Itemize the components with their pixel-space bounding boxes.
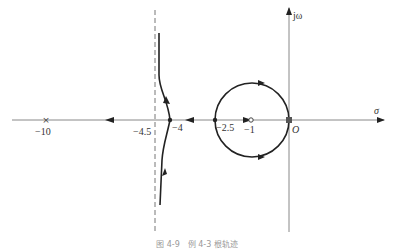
pole-cross-icon: × — [42, 115, 50, 125]
double-pole-origin — [286, 117, 292, 123]
label-sigma: σ — [374, 105, 380, 116]
root-locus-diagram: × −10 −4.5 −4 −2.5 −1 O σ jω — [0, 0, 394, 251]
lower-branch — [160, 120, 170, 205]
zero-minus1 — [249, 118, 253, 122]
label-minus4-5: −4.5 — [133, 126, 151, 137]
label-minus1: −1 — [244, 124, 255, 135]
figure-caption: 图 4-9 例 4-3 根轨迹 — [0, 238, 394, 249]
label-jomega: jω — [292, 10, 303, 21]
label-minus2-5: −2.5 — [216, 122, 234, 133]
label-minus10: −10 — [35, 126, 51, 137]
label-origin: O — [292, 124, 299, 135]
label-minus4: −4 — [172, 122, 183, 133]
upper-branch — [159, 33, 170, 120]
